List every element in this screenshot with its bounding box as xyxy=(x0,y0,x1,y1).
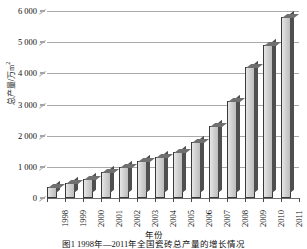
bar-top-face xyxy=(264,42,281,46)
x-axis-tick-mark xyxy=(227,198,228,202)
x-axis-label-2000: 2000 xyxy=(96,210,106,227)
bar-top-face xyxy=(192,139,209,143)
y-axis-tick-label: 3 000 xyxy=(18,100,37,110)
x-axis-tick-mark xyxy=(245,198,246,202)
x-axis-tick-mark xyxy=(299,198,300,202)
x-axis-tick-mark xyxy=(137,198,138,202)
bar-side-face xyxy=(200,135,204,193)
y-axis-tick-label: 6 000 xyxy=(18,6,37,16)
x-axis-tick-mark xyxy=(173,198,174,202)
bar-2010 xyxy=(263,45,273,198)
bar-2001 xyxy=(101,172,111,198)
x-axis-tick-mark xyxy=(281,198,282,202)
x-axis-tick-mark xyxy=(155,198,156,202)
bar-top-face xyxy=(282,14,299,18)
figure-caption: 图1 1998年—2011年全国瓷砖总产量的增长情况 xyxy=(0,237,307,249)
bar-2003 xyxy=(137,161,147,198)
bar-2008 xyxy=(227,101,237,198)
x-axis-label-2007: 2007 xyxy=(222,210,232,227)
x-axis-tick-mark xyxy=(263,198,264,202)
bar-2009 xyxy=(245,67,255,198)
y-axis-tick-label: 2 000 xyxy=(18,131,37,141)
bar-side-face xyxy=(218,120,222,193)
x-axis-tick-mark xyxy=(209,198,210,202)
x-axis-label-2001: 2001 xyxy=(114,210,124,227)
y-axis-tick-label: 4 000 xyxy=(18,68,37,78)
x-axis-tick-mark xyxy=(47,198,48,202)
bar-2007 xyxy=(209,126,219,198)
x-axis-tick-mark xyxy=(119,198,120,202)
x-axis-tick-mark xyxy=(191,198,192,202)
bar-side-face xyxy=(290,11,294,193)
bar-top-face xyxy=(48,184,65,188)
x-axis-tick-mark xyxy=(65,198,66,202)
bar-top-face xyxy=(174,149,191,153)
bar-2011 xyxy=(281,17,291,198)
x-axis-label-2004: 2004 xyxy=(168,210,178,227)
bar-top-face xyxy=(84,176,101,180)
x-axis-label-2010: 2010 xyxy=(276,210,286,227)
x-axis-label-2011: 2011 xyxy=(294,210,304,227)
y-axis-tick-label: 5 000 xyxy=(18,37,37,47)
bar-2002 xyxy=(119,167,129,198)
bar-side-face xyxy=(272,39,276,193)
bar-side-face xyxy=(236,95,240,193)
x-axis-label-2006: 2006 xyxy=(204,210,214,227)
bar-2004 xyxy=(155,157,165,198)
bar-2000 xyxy=(83,179,93,198)
x-axis-label-group: 1998199920002001200220032004200520062007… xyxy=(47,203,299,229)
plot-area xyxy=(47,11,299,198)
bar-top-face xyxy=(138,158,155,162)
x-axis-label-2008: 2008 xyxy=(240,210,250,227)
x-axis-label-1998: 1998 xyxy=(60,210,70,227)
bar-top-face xyxy=(246,64,263,68)
bar-top-face xyxy=(228,98,245,102)
x-axis-label-2005: 2005 xyxy=(186,210,196,227)
bar-top-face xyxy=(210,123,227,127)
bar-1998 xyxy=(47,187,57,198)
bar-2005 xyxy=(173,152,183,198)
bar-top-face xyxy=(156,154,173,158)
x-axis-label-2009: 2009 xyxy=(258,210,268,227)
x-axis-label-2003: 2003 xyxy=(150,210,160,227)
y-axis-tick-label: 1 000 xyxy=(18,162,37,172)
bar-2006 xyxy=(191,142,201,198)
x-axis-tick-mark xyxy=(101,198,102,202)
x-axis-label-2002: 2002 xyxy=(132,210,142,227)
bar-top-face xyxy=(66,180,83,184)
bar-1999 xyxy=(65,183,75,198)
bar-side-face xyxy=(254,61,258,193)
x-axis-label-1999: 1999 xyxy=(78,210,88,227)
x-axis-tick-mark xyxy=(83,198,84,202)
bar-top-face xyxy=(102,169,119,173)
bar-top-face xyxy=(120,164,137,168)
bar-group xyxy=(47,11,299,198)
y-axis-tick-label: 0 xyxy=(33,193,37,203)
